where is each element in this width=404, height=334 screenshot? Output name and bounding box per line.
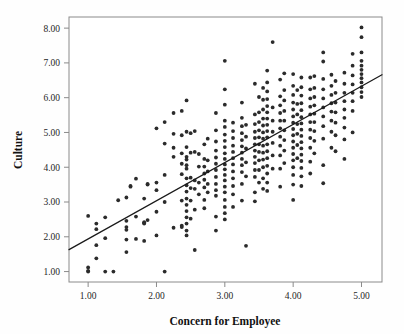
data-point — [253, 161, 257, 165]
data-point — [214, 140, 218, 144]
data-point — [189, 199, 193, 203]
x-tick-label: 4.00 — [285, 291, 302, 301]
data-point — [240, 170, 244, 174]
data-point — [321, 137, 325, 141]
data-point — [278, 185, 282, 189]
data-point — [253, 190, 257, 194]
data-point — [312, 120, 316, 124]
data-point — [146, 183, 150, 187]
data-point — [299, 134, 303, 138]
data-point — [94, 256, 98, 260]
y-tick-label: 1.00 — [43, 267, 60, 277]
data-point — [214, 182, 218, 186]
data-point — [291, 115, 295, 119]
data-point — [291, 101, 295, 105]
data-point — [291, 146, 295, 150]
data-point — [330, 119, 334, 123]
data-point — [299, 85, 303, 89]
data-point — [291, 140, 295, 144]
data-point — [214, 162, 218, 166]
data-point — [231, 205, 235, 209]
data-point — [312, 139, 316, 143]
data-point — [142, 239, 146, 243]
data-point — [197, 181, 201, 185]
data-point — [308, 160, 312, 164]
data-point — [351, 83, 355, 87]
data-point — [330, 110, 334, 114]
data-point — [125, 196, 129, 200]
y-axis-title: Culture — [12, 131, 24, 169]
y-tick-label: 4.00 — [43, 163, 60, 173]
data-point — [321, 60, 325, 64]
data-point — [299, 128, 303, 132]
data-point — [271, 141, 275, 145]
data-point — [261, 158, 265, 162]
data-point — [343, 126, 347, 130]
data-point — [312, 129, 316, 133]
data-point — [155, 210, 159, 214]
data-point — [291, 165, 295, 169]
data-point — [253, 168, 257, 172]
data-point — [185, 209, 189, 213]
data-point — [321, 77, 325, 81]
data-point — [185, 130, 189, 134]
data-point — [231, 150, 235, 154]
data-point — [351, 74, 355, 78]
data-point — [240, 157, 244, 161]
data-point — [172, 155, 176, 159]
data-point — [308, 136, 312, 140]
data-point — [185, 145, 189, 149]
data-point — [223, 119, 227, 123]
data-point — [193, 187, 197, 191]
data-point — [291, 152, 295, 156]
data-point — [278, 126, 282, 130]
data-point — [295, 132, 299, 136]
data-point — [180, 109, 184, 113]
data-point — [185, 163, 189, 167]
data-point — [282, 109, 286, 113]
data-point — [271, 167, 275, 171]
data-point — [240, 199, 244, 203]
data-point — [240, 138, 244, 142]
data-point — [223, 151, 227, 155]
data-point — [265, 117, 269, 121]
data-point — [142, 197, 146, 201]
data-point — [299, 122, 303, 126]
data-point — [299, 76, 303, 80]
data-point — [330, 73, 334, 77]
data-point — [257, 135, 261, 139]
data-point — [185, 203, 189, 207]
data-point — [223, 190, 227, 194]
data-point — [103, 215, 107, 219]
data-point — [163, 120, 167, 124]
data-point — [257, 110, 261, 114]
data-point — [189, 217, 193, 221]
data-point — [265, 80, 269, 84]
data-point — [206, 190, 210, 194]
data-point — [265, 181, 269, 185]
data-point — [321, 124, 325, 128]
data-point — [231, 136, 235, 140]
data-point — [214, 194, 218, 198]
data-point — [282, 88, 286, 92]
data-point — [253, 199, 257, 203]
data-point — [223, 218, 227, 222]
data-point — [94, 227, 98, 231]
data-point — [360, 35, 364, 39]
data-point — [185, 167, 189, 171]
data-point — [351, 99, 355, 103]
data-point — [146, 218, 150, 222]
data-point — [214, 229, 218, 233]
data-point — [271, 40, 275, 44]
data-point — [321, 115, 325, 119]
data-point — [282, 119, 286, 123]
data-point — [351, 52, 355, 56]
data-point — [265, 142, 269, 146]
data-point — [189, 186, 193, 190]
data-point — [103, 270, 107, 274]
data-point — [180, 172, 184, 176]
data-point — [295, 102, 299, 106]
data-point — [334, 110, 338, 114]
y-tick-label: 3.00 — [43, 197, 60, 207]
data-point — [271, 106, 275, 110]
